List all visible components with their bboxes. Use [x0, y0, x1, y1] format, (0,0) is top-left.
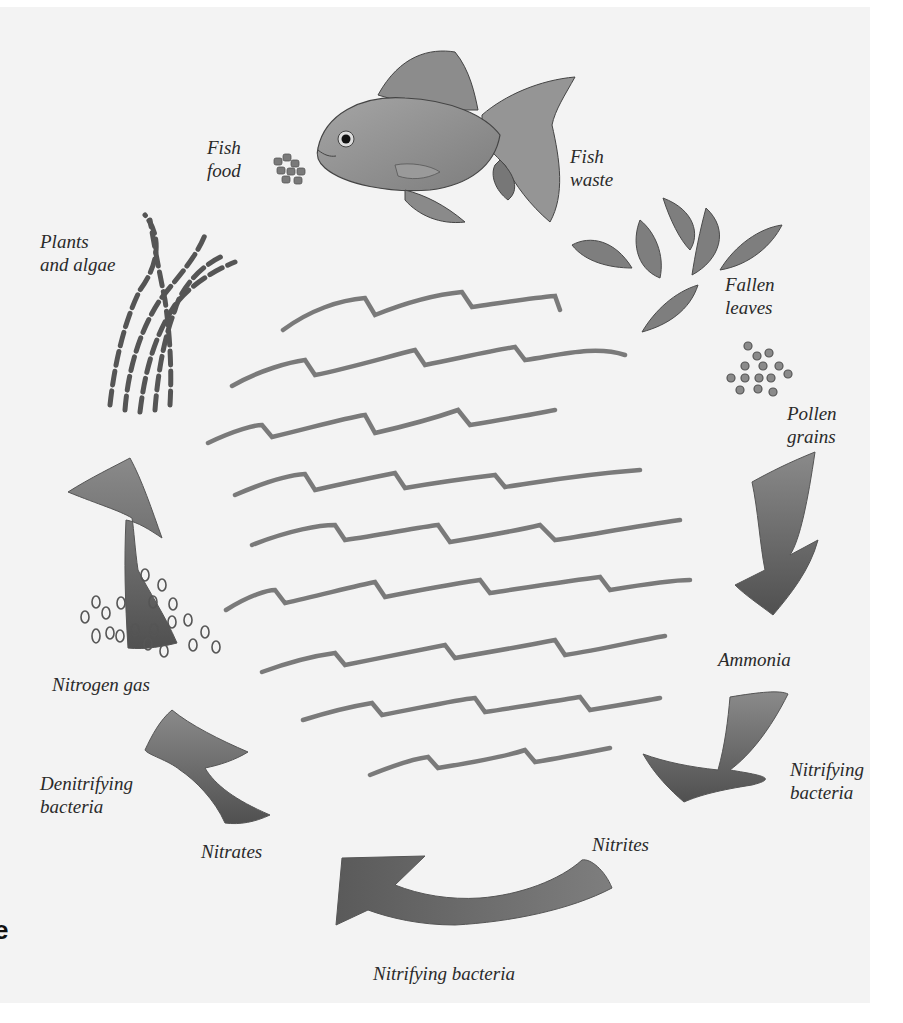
- label-nitrifying-bacteria-right: Nitrifying bacteria: [790, 758, 864, 804]
- plants-algae-icon: [110, 215, 235, 412]
- goldfish-icon: [317, 51, 575, 223]
- label-fish-waste: Fish waste: [570, 145, 613, 191]
- arrow-nitrifying-bacteria-bottom-icon: [336, 856, 612, 925]
- label-nitrites: Nitrites: [592, 833, 649, 856]
- label-fallen-leaves: Fallen leaves: [725, 273, 775, 319]
- pollen-grains-icon: [727, 342, 792, 396]
- label-denitrifying-bacteria: Denitrifying bacteria: [40, 772, 133, 818]
- arrow-nitrifying-bacteria-right-icon: [643, 692, 788, 802]
- label-nitrifying-bacteria-bottom: Nitrifying bacteria: [373, 962, 515, 985]
- arrow-denitrifying-bacteria-icon: [145, 710, 270, 824]
- label-fish-food: Fish food: [207, 136, 241, 182]
- water-waves-icon: [208, 292, 690, 775]
- fish-food-pellets-icon: [274, 154, 305, 184]
- label-nitrates: Nitrates: [201, 840, 262, 863]
- cropped-edge-text: e: [0, 915, 8, 946]
- label-plants-and-algae: Plants and algae: [40, 230, 115, 276]
- label-nitrogen-gas: Nitrogen gas: [52, 673, 150, 696]
- label-ammonia: Ammonia: [718, 648, 791, 671]
- label-pollen-grains: Pollen grains: [787, 402, 837, 448]
- arrow-nitrogen-gas-up-icon: [68, 458, 177, 649]
- arrow-to-ammonia-icon: [735, 452, 818, 615]
- nitrogen-cycle-illustration: [0, 0, 903, 1023]
